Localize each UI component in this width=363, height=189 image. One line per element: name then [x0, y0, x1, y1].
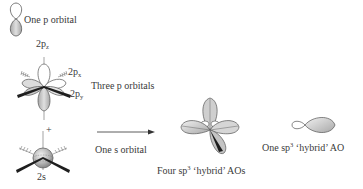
py-base: 2p	[70, 88, 80, 99]
px-label: 2px	[68, 66, 81, 78]
four-sp3-hybrids-icon	[181, 98, 239, 154]
hybridization-diagram	[0, 0, 363, 189]
px-base: 2p	[68, 66, 78, 77]
one-hybrid-suffix: ‘hybrid’ AO	[293, 142, 344, 153]
one-p-orbital-label: One p orbital	[24, 14, 77, 25]
one-s-orbital-label: One s orbital	[95, 144, 147, 155]
pz-label: 2pz	[36, 38, 49, 50]
py-sub: y	[80, 93, 83, 100]
plus-sign: +	[46, 124, 52, 135]
pz-sub: z	[46, 43, 49, 50]
pz-base: 2p	[36, 38, 46, 49]
py-label: 2py	[70, 88, 83, 100]
four-hybrid-suffix: ‘hybrid’ AOs	[191, 165, 246, 176]
three-p-orbitals-icon	[17, 57, 71, 120]
two-s-label: 2s	[37, 171, 46, 182]
one-hybrid-prefix: One sp	[262, 142, 290, 153]
four-sp3-hybrid-label: Four sp3 ‘hybrid’ AOs	[157, 164, 245, 176]
s-orbital-icon	[16, 131, 70, 173]
single-p-orbital-icon	[10, 3, 21, 36]
one-sp3-hybrid-label: One sp3 ‘hybrid’ AO	[262, 141, 344, 153]
arrow-icon	[97, 130, 155, 135]
px-sub: x	[78, 71, 81, 78]
four-hybrid-prefix: Four sp	[157, 165, 187, 176]
one-sp3-hybrid-icon	[292, 117, 335, 132]
three-p-orbitals-label: Three p orbitals	[91, 80, 154, 91]
